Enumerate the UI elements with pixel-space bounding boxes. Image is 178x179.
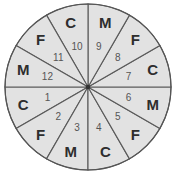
spinner-wheel: C1F2M3C4F5M6C7F8M9C10F11M12: [0, 0, 178, 179]
sector-letter: C: [65, 14, 76, 31]
sector-number: 9: [96, 41, 102, 52]
sector-letter: M: [146, 96, 159, 113]
sector-letter: M: [99, 14, 112, 31]
sector-letter: F: [36, 126, 45, 143]
sector-letter: M: [64, 143, 77, 160]
sector-number: 8: [115, 52, 121, 63]
sector-number: 2: [56, 111, 62, 122]
sector-number: 5: [115, 111, 121, 122]
sector-number: 6: [126, 92, 132, 103]
wheel-hub: [86, 85, 90, 89]
sector-letter: M: [17, 61, 30, 78]
sector-number: 11: [53, 52, 64, 63]
sector-letter: C: [18, 96, 29, 113]
sector-number: 10: [72, 41, 84, 52]
sector-number: 4: [96, 122, 102, 133]
sector-number: 7: [126, 71, 132, 82]
sector-letter: F: [36, 31, 45, 48]
sector-letter: F: [131, 31, 140, 48]
sector-letter: C: [100, 143, 111, 160]
sector-number: 1: [45, 92, 51, 103]
sector-number: 3: [74, 122, 80, 133]
sector-letter: F: [131, 126, 140, 143]
sector-letter: C: [147, 61, 158, 78]
sector-number: 12: [42, 71, 54, 82]
